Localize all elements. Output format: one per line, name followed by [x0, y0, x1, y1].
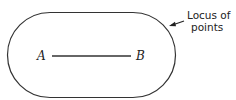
point-b-label: B [135, 49, 145, 63]
point-a-label: A [36, 49, 46, 63]
locus-diagram: A B Locus of points [0, 0, 236, 100]
arrow-icon [169, 21, 184, 26]
locus-stadium-outline [8, 13, 176, 98]
annotation-line2: points [191, 21, 223, 33]
annotation-line1: Locus of [187, 9, 231, 21]
